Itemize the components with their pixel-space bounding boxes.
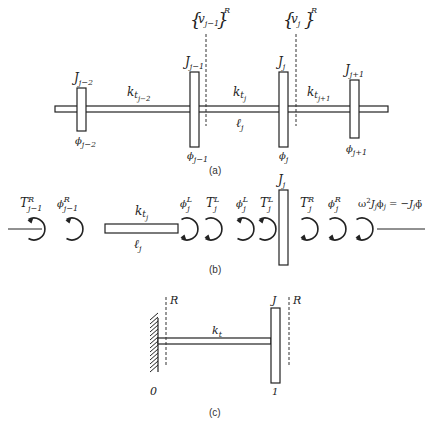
hatch-line [150, 333, 158, 340]
disk-j-2 [77, 88, 86, 131]
label-station-1: 1 [272, 386, 278, 397]
label-R-right: R [292, 294, 301, 307]
hatch-line [150, 341, 158, 348]
shaft-element-b [105, 224, 178, 233]
label-kt-j-b: ktj [135, 204, 149, 222]
label-J-j+1: Jj+1 [342, 63, 364, 79]
panel-c-label: (c) [209, 407, 221, 418]
label-J-j-1: Jj−1 [182, 55, 204, 71]
label-station-0: 0 [150, 385, 157, 398]
panel-a: Jj−2 Jj−1 Jj Jj+1 ϕj−2 ϕj−1 ϕj ϕj+1 ktj−… [55, 6, 388, 176]
label-l-j-b: ℓj [134, 237, 142, 253]
panel-b: ktj ℓj Jj TRj−1 ϕRj−1 ϕLj TLj ϕLj TLj TR… [8, 173, 425, 275]
label-J-j-b: Jj [275, 173, 286, 189]
label-T-L-j-b: TLj [260, 195, 273, 213]
panel-b-label: (b) [209, 264, 221, 275]
hatch-line [150, 357, 158, 364]
arrow-phi-L-j-b [237, 217, 254, 240]
label-phi-R-j-1: ϕRj−1 [57, 195, 78, 213]
disk-j [279, 72, 288, 147]
disk-j-1 [190, 72, 199, 147]
arrow-phi-L-j-a [181, 218, 198, 241]
label-kt-j: ktj [233, 85, 247, 103]
label-l-j: ℓj [236, 116, 244, 132]
arrow-T-L-j-a [205, 218, 222, 241]
label-inertia-torque: ω2Jjϕj = −Jjϕ̈ [358, 197, 422, 211]
label-T-R-j: TRj [300, 195, 314, 213]
label-J-j-2: Jj−2 [71, 71, 93, 87]
svg-text:vj−1: vj−1 [198, 12, 219, 28]
label-kt-j-2: ktj−2 [127, 85, 151, 103]
label-T-R-j-1: TRj−1 [20, 195, 42, 213]
disk-j-b [279, 190, 288, 265]
label-phi-j: ϕj [279, 150, 289, 164]
hatch-line [150, 349, 158, 356]
label-phi-R-j: ϕRj [328, 195, 341, 213]
label-phi-L-j-b: ϕLj [236, 195, 248, 213]
shaft-a [55, 106, 388, 112]
svg-text:R: R [223, 6, 230, 15]
hatch-line [150, 353, 158, 360]
hatch-line [150, 361, 158, 368]
hatch-line [150, 317, 158, 324]
label-T-L-j-a: TLj [206, 195, 219, 213]
arrow-T-R-j [301, 218, 318, 241]
disk-c [271, 308, 280, 383]
label-phi-L-j-a: ϕLj [180, 195, 192, 213]
arrow-phi-R-j [329, 218, 346, 241]
label-J-c: J [270, 294, 277, 307]
hatch-line [150, 329, 158, 336]
state-vector-j: { vj } R [283, 6, 317, 30]
label-kt-j+1: ktj+1 [307, 85, 330, 103]
label-J-j: Jj [275, 55, 286, 71]
label-phi-j-1: ϕj−1 [187, 150, 208, 164]
rotation-arrows [28, 217, 373, 240]
hatch-line [150, 365, 158, 372]
hatch-line [150, 325, 158, 332]
state-vector-j-1: { vj−1 } R [190, 6, 230, 30]
label-kt-c: kt [212, 324, 223, 339]
disk-j+1 [350, 80, 359, 138]
label-R-left: R [169, 294, 178, 307]
arrow-phi-R-j-1 [66, 217, 83, 240]
arrow-T-L-j-b [259, 217, 276, 240]
label-phi-j-2: ϕj−2 [75, 135, 96, 149]
panel-a-label: (a) [209, 165, 221, 176]
arrow-inertia-torque [356, 218, 373, 241]
shaft-c [158, 338, 271, 344]
panel-c: R R J kt 0 1 (c) [150, 294, 301, 418]
hatch-line [150, 313, 158, 320]
wall-hatch [150, 313, 158, 372]
label-phi-j+1: ϕj+1 [346, 143, 367, 157]
hatch-line [150, 345, 158, 352]
svg-text:R: R [310, 6, 317, 15]
torsional-system-diagram: Jj−2 Jj−1 Jj Jj+1 ϕj−2 ϕj−1 ϕj ϕj+1 ktj−… [0, 0, 432, 427]
hatch-line [150, 321, 158, 328]
hatch-line [150, 337, 158, 344]
svg-text:vj: vj [291, 12, 301, 28]
